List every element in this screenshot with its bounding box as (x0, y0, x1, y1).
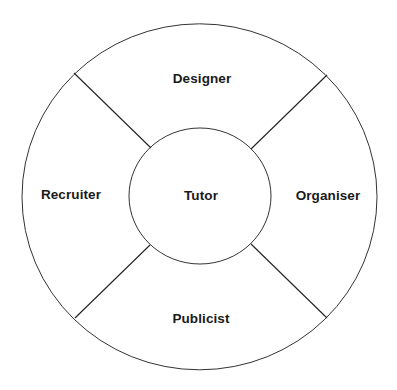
divider-top-left (74, 73, 151, 148)
divider-top-right (251, 75, 327, 149)
center-label-tutor: Tutor (184, 188, 218, 204)
divider-bottom-right (251, 244, 327, 318)
segment-label-publicist: Publicist (172, 311, 229, 327)
divider-bottom-left (75, 245, 150, 318)
role-ring-diagram: Designer Organiser Publicist Recruiter T… (0, 0, 397, 390)
segment-label-recruiter: Recruiter (41, 187, 101, 203)
segment-label-designer: Designer (173, 71, 232, 87)
segment-label-organiser: Organiser (296, 188, 361, 204)
